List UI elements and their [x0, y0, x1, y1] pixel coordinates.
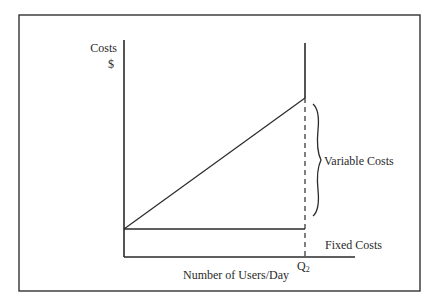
variable-costs-label: Variable Costs	[324, 154, 394, 168]
variable-costs-brace	[313, 104, 321, 216]
q2-tick-label: Q2	[297, 259, 310, 274]
y-axis-unit: $	[108, 57, 114, 71]
x-axis-label: Number of Users/Day	[183, 268, 289, 282]
fixed-costs-label: Fixed Costs	[325, 238, 382, 252]
cost-diagram: Costs $ Variable Costs Fixed Costs Q2 Nu…	[0, 0, 436, 307]
y-axis-label: Costs	[90, 41, 117, 55]
total-cost-line	[124, 98, 305, 229]
